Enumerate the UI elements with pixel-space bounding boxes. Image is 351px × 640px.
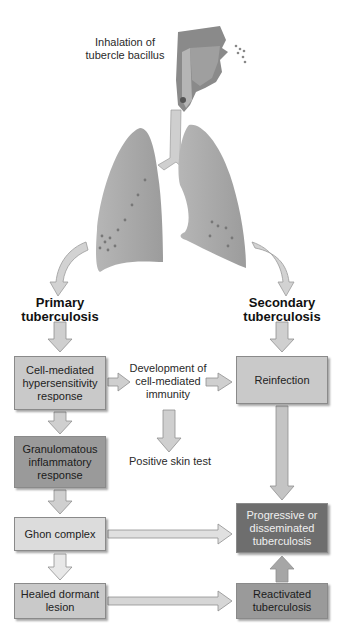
- secondary-line-2: tuberculosis: [240, 310, 324, 324]
- secondary-tuberculosis-heading: Secondary tuberculosis: [240, 296, 324, 324]
- box-healed-text: Healed dormant lesion: [17, 588, 103, 614]
- inhalation-line-2: tubercle bacillus: [70, 49, 180, 62]
- curved-arrow-right: [252, 242, 294, 296]
- box-granulomatous-text: Granulomatous inflammatory response: [17, 443, 103, 482]
- box-reinfection: Reinfection: [236, 356, 328, 404]
- inhalation-label: Inhalation of tubercle bacillus: [70, 36, 180, 62]
- primary-tuberculosis-heading: Primary tuberculosis: [18, 296, 102, 324]
- box-reactivated: Reactivated tuberculosis: [236, 583, 328, 619]
- bacillus-particles-icon: [235, 45, 247, 64]
- head-cross-section-icon: [176, 26, 228, 112]
- inhalation-line-1: Inhalation of: [70, 36, 180, 49]
- box-cell-mediated-text: Cell-mediated hypersensitivity response: [17, 364, 103, 403]
- secondary-line-1: Secondary: [240, 296, 324, 310]
- box-progressive: Progressive or disseminated tuberculosis: [236, 503, 328, 553]
- box-ghon-text: Ghon complex: [25, 528, 96, 541]
- curved-arrow-left: [50, 242, 88, 296]
- box-reinfection-text: Reinfection: [254, 374, 309, 387]
- box-reactivated-text: Reactivated tuberculosis: [239, 588, 325, 614]
- primary-line-2: tuberculosis: [18, 310, 102, 324]
- box-ghon-complex: Ghon complex: [14, 517, 106, 551]
- primary-line-1: Primary: [18, 296, 102, 310]
- development-immunity-label: Development of cell-mediated immunity: [128, 362, 208, 401]
- positive-skin-test-label: Positive skin test: [124, 455, 216, 468]
- box-healed-dormant: Healed dormant lesion: [14, 583, 106, 619]
- box-granulomatous: Granulomatous inflammatory response: [14, 436, 106, 488]
- box-progressive-text: Progressive or disseminated tuberculosis: [239, 509, 325, 548]
- box-cell-mediated: Cell-mediated hypersensitivity response: [14, 356, 106, 410]
